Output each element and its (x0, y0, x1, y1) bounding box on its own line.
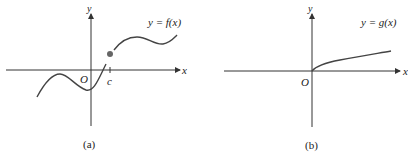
panel-b-y-label: y (308, 4, 312, 14)
panel-a-function-label: y = f(x) (148, 17, 181, 28)
panel-b-graph (224, 14, 400, 127)
panel-b-caption: (b) (305, 140, 318, 151)
panel-b-curve (312, 51, 391, 71)
panel-b-origin-label: O (301, 77, 309, 88)
panel-b-x-label: x (403, 66, 408, 77)
panel-a-c-label: c (107, 76, 112, 87)
panel-a-graph (6, 14, 180, 126)
panel-a-curve-right (114, 35, 177, 50)
panel-a-x-label: x (182, 65, 187, 76)
panel-a-y-label: y (87, 4, 91, 14)
panel-a-curve-left (37, 64, 106, 97)
panel-a-origin-label: O (80, 74, 88, 85)
panel-a-point-dot (107, 51, 113, 57)
panel-a-caption: (a) (83, 139, 95, 150)
panel-b-function-label: y = g(x) (361, 17, 397, 28)
